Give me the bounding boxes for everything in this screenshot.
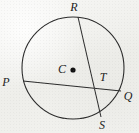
center-dot (70, 67, 75, 72)
label-center-c: C (58, 62, 67, 76)
geometry-figure: R P T Q S C (0, 0, 139, 133)
chord-r-s (78, 17, 101, 117)
label-point-q: Q (124, 89, 133, 103)
label-point-s: S (99, 118, 105, 132)
label-point-t: T (100, 70, 108, 84)
label-point-r: R (69, 0, 78, 14)
label-point-p: P (1, 75, 10, 89)
circle-diagram-svg: R P T Q S C (0, 0, 139, 133)
